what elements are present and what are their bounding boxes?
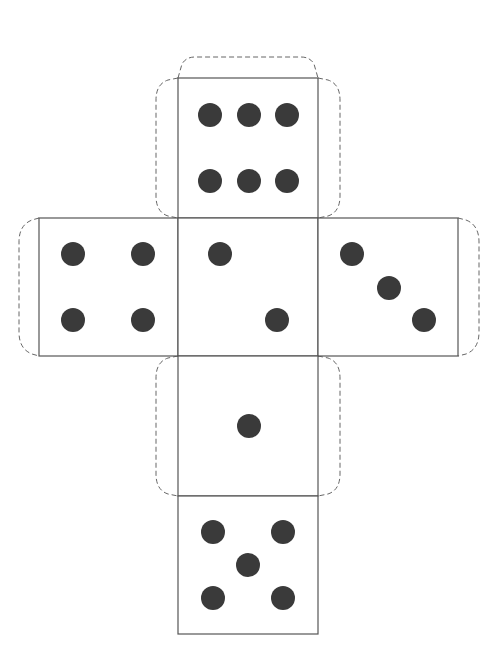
left-face-left-tab <box>19 218 39 356</box>
top-face-left-tab <box>156 78 178 218</box>
pip-dot <box>377 276 401 300</box>
pip-dot <box>412 308 436 332</box>
pip-dot <box>237 169 261 193</box>
top-face-right-tab <box>318 78 340 218</box>
pip-dot <box>271 520 295 544</box>
pip-dot <box>61 308 85 332</box>
pip-dot <box>61 242 85 266</box>
pip-dot <box>131 308 155 332</box>
pip-dot <box>237 414 261 438</box>
pip-dot <box>275 103 299 127</box>
lower-face-left-tab <box>156 356 178 496</box>
pip-dot <box>271 586 295 610</box>
face-bottom-5 <box>178 496 318 634</box>
pip-dot <box>236 553 260 577</box>
pip-dot <box>237 103 261 127</box>
face-left-4 <box>39 218 178 356</box>
pip-dot <box>198 103 222 127</box>
pip-dot <box>208 242 232 266</box>
pip-dot <box>131 242 155 266</box>
face-square <box>39 218 178 356</box>
pip-dot <box>201 586 225 610</box>
pip-dot <box>265 308 289 332</box>
right-face-right-tab <box>458 218 479 356</box>
pip-dot <box>275 169 299 193</box>
face-right-3 <box>318 218 458 356</box>
face-square <box>178 78 318 218</box>
dice-net-diagram <box>0 0 499 671</box>
face-center-2 <box>178 218 318 356</box>
face-lower-1 <box>178 356 318 496</box>
top-face-top-tab <box>178 57 318 78</box>
pip-dot <box>201 520 225 544</box>
face-square <box>178 218 318 356</box>
face-top-6 <box>178 78 318 218</box>
dice-faces <box>39 78 458 634</box>
pip-dot <box>198 169 222 193</box>
pip-dot <box>340 242 364 266</box>
lower-face-right-tab <box>318 356 340 496</box>
